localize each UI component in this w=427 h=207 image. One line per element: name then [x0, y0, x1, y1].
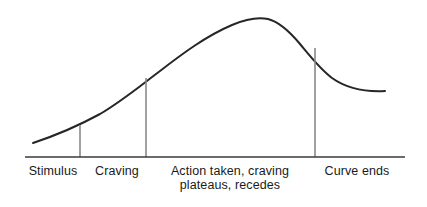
- axis-label-action-taken: Action taken, craving plateaus, recedes: [150, 164, 310, 192]
- axis-label-curve-ends: Curve ends: [312, 164, 402, 178]
- craving-curve-path: [33, 18, 385, 143]
- craving-curve-figure: Stimulus Craving Action taken, craving p…: [0, 0, 427, 207]
- axis-label-craving: Craving: [85, 164, 149, 178]
- axis-label-stimulus: Stimulus: [18, 164, 88, 178]
